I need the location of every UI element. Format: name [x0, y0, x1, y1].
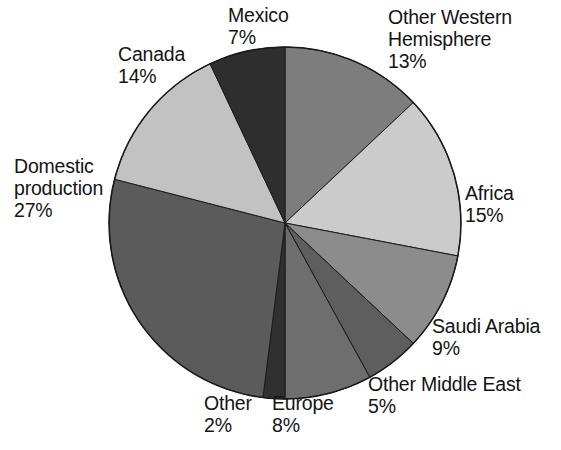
pie-label-domestic-production-line1: Domestic [14, 155, 103, 177]
pie-label-other-western-hemisphere-line2: Hemisphere [388, 28, 512, 50]
pie-label-saudi-arabia-name: Saudi Arabia [432, 315, 540, 337]
pie-label-mexico-value: 7% [228, 26, 289, 48]
pie-label-canada: Canada 14% [118, 43, 185, 87]
pie-label-domestic-production: Domestic production 27% [14, 155, 103, 221]
pie-label-other-value: 2% [204, 414, 252, 436]
pie-label-saudi-arabia-value: 9% [432, 337, 540, 359]
pie-label-africa: Africa 15% [465, 182, 514, 226]
pie-chart-page: Mexico 7% Other Western Hemisphere 13% C… [0, 0, 561, 450]
pie-slice-group [109, 47, 461, 399]
pie-label-other-middle-east-value: 5% [368, 395, 521, 417]
pie-label-other-middle-east-name: Other Middle East [368, 373, 521, 395]
pie-label-domestic-production-value: 27% [14, 199, 103, 221]
pie-label-africa-name: Africa [465, 182, 514, 204]
pie-label-canada-name: Canada [118, 43, 185, 65]
pie-label-other-western-hemisphere: Other Western Hemisphere 13% [388, 6, 512, 72]
pie-label-other-western-hemisphere-line1: Other Western [388, 6, 512, 28]
pie-label-other-western-hemisphere-value: 13% [388, 50, 512, 72]
pie-label-europe-value: 8% [272, 414, 334, 436]
pie-label-other-middle-east: Other Middle East 5% [368, 373, 521, 417]
pie-label-mexico-name: Mexico [228, 4, 289, 26]
pie-label-mexico: Mexico 7% [228, 4, 289, 48]
pie-label-saudi-arabia: Saudi Arabia 9% [432, 315, 540, 359]
pie-label-other: Other 2% [204, 392, 252, 436]
pie-label-europe: Europe 8% [272, 392, 334, 436]
pie-label-other-name: Other [204, 392, 252, 414]
pie-label-domestic-production-line2: production [14, 177, 103, 199]
pie-label-europe-name: Europe [272, 392, 334, 414]
pie-label-africa-value: 15% [465, 204, 514, 226]
pie-label-canada-value: 14% [118, 65, 185, 87]
